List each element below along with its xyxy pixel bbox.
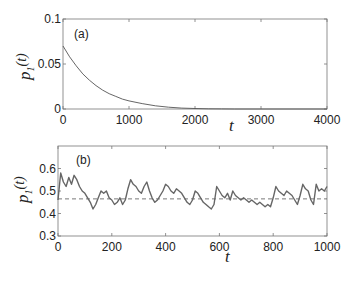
figure: 01000200030004000 00.050.1 (a) t p1(t) 0…	[0, 0, 356, 281]
y-tick-label: 0.1	[44, 12, 61, 26]
y-tick-label: 0.6	[39, 162, 56, 176]
x-tick-label: 1000	[314, 240, 341, 254]
data-line	[58, 173, 327, 209]
y-tick-label: 0.5	[39, 184, 56, 198]
ylabel-arg: (t)	[12, 176, 28, 190]
axes-frame	[63, 19, 327, 109]
y-tick-label: 0.3	[39, 229, 56, 243]
y-tick-labels: 00.050.1	[38, 12, 62, 116]
y-tick-label: 0	[54, 102, 61, 116]
x-tick-label: 3000	[248, 113, 275, 127]
x-tick-labels: 02004006008001000	[55, 240, 341, 254]
panel-label: (b)	[76, 153, 91, 167]
y-axis-label: p1(t)	[12, 176, 34, 204]
svg-text:p1(t): p1(t)	[12, 176, 34, 204]
y-axis-label: p1(t)	[14, 53, 36, 81]
x-tick-labels: 01000200030004000	[60, 113, 341, 127]
panel-label: (a)	[74, 27, 89, 41]
y-tick-label: 0.05	[38, 57, 62, 71]
x-tick-label: 4000	[314, 113, 341, 127]
ylabel-arg: (t)	[14, 53, 30, 67]
svg-text:p1(t): p1(t)	[14, 53, 36, 81]
panel-b-chart: 02004006008001000 0.30.40.50.6 (b) t p1(…	[12, 146, 341, 266]
x-tick-label: 400	[156, 240, 176, 254]
x-tick-label: 200	[102, 240, 122, 254]
ylabel-main: p	[13, 195, 32, 205]
panel-a-chart: 01000200030004000 00.050.1 (a) t p1(t)	[14, 12, 341, 135]
data-line	[63, 46, 327, 109]
y-tick-labels: 0.30.40.50.6	[39, 162, 56, 244]
ylabel-main: p	[15, 72, 34, 82]
x-tick-label: 2000	[182, 113, 209, 127]
x-axis-label: t	[229, 116, 235, 135]
x-tick-label: 1000	[116, 113, 143, 127]
x-tick-label: 800	[263, 240, 283, 254]
x-axis-label: t	[225, 247, 231, 266]
y-tick-label: 0.4	[39, 207, 56, 221]
tick-marks	[63, 19, 327, 109]
